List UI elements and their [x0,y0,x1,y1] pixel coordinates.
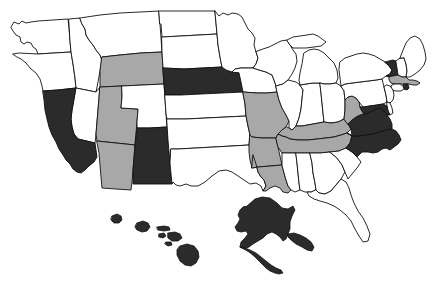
inset-states-group [111,197,314,274]
state-OH[interactable] [320,83,345,123]
state-HI-oahu[interactable] [135,221,150,232]
us-map-svg [0,0,438,284]
state-HI-lanai[interactable] [159,233,166,238]
state-MN[interactable] [215,11,258,72]
state-AZ[interactable] [97,141,135,190]
state-HI-kauai[interactable] [111,214,122,223]
us-choropleth-map-figure [0,0,438,284]
state-AK[interactable] [235,197,295,249]
state-NY[interactable] [339,53,392,86]
state-WY[interactable] [100,52,164,87]
state-AK-aleutians[interactable] [240,247,283,274]
state-WA[interactable] [11,19,71,54]
state-HI-maui[interactable] [168,232,182,241]
state-SD[interactable] [162,34,222,69]
state-OR[interactable] [13,52,76,91]
state-KS[interactable] [165,92,246,119]
state-HI-bigisland[interactable] [177,244,199,266]
state-MI[interactable] [299,49,338,85]
state-NM[interactable] [133,127,172,184]
contiguous-states-group [11,11,426,242]
state-HI-molokai[interactable] [157,226,170,231]
state-ND[interactable] [159,11,217,37]
state-MI-up[interactable] [287,34,326,48]
state-HI-kahoolawe[interactable] [165,242,172,246]
state-AK-peninsula[interactable] [288,233,314,251]
